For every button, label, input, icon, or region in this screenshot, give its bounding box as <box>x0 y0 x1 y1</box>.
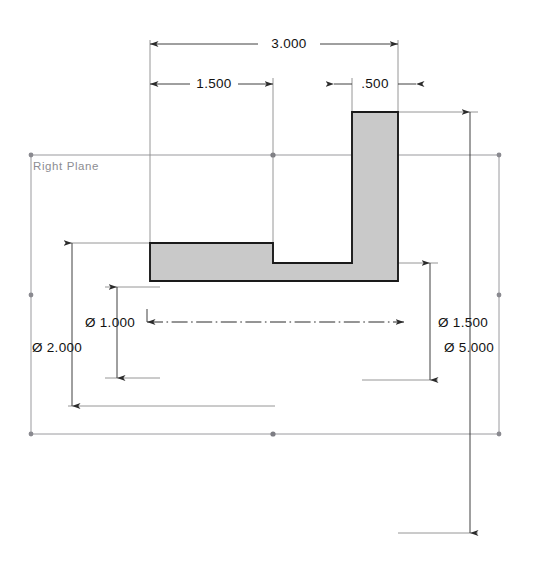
plane-corner-point-br[interactable] <box>497 432 502 437</box>
extension-lines <box>68 40 478 533</box>
dim-dia-1000-group[interactable]: Ø 1.000 <box>85 287 135 378</box>
plane-corner-point-bl[interactable] <box>29 432 34 437</box>
profile-outline[interactable] <box>150 112 398 281</box>
dim-1500-top-group[interactable]: 1.500 <box>150 76 273 91</box>
plane-midpoint-left[interactable] <box>29 293 34 298</box>
dim-1500-top-label[interactable]: 1.500 <box>196 76 231 91</box>
dim-dia-1000-label[interactable]: Ø 1.000 <box>85 315 135 330</box>
sketch-svg: Right Plane 3. <box>0 0 533 563</box>
dim-3000-group[interactable]: 3.000 <box>150 36 398 51</box>
dim-3000-label[interactable]: 3.000 <box>271 36 306 51</box>
right-plane-boundary[interactable] <box>29 152 502 436</box>
dim-dia-1500-group[interactable]: Ø 1.500 <box>430 263 488 380</box>
right-plane-label: Right Plane <box>33 160 99 172</box>
dim-0500-label[interactable]: .500 <box>361 76 388 91</box>
dim-dia-2000-group[interactable]: Ø 2.000 <box>32 243 82 406</box>
revolve-profile-shape[interactable] <box>150 112 398 281</box>
revolve-axis-centerline[interactable] <box>147 309 404 322</box>
dim-dia-2000-label[interactable]: Ø 2.000 <box>32 340 82 355</box>
plane-corner-point-tr[interactable] <box>497 153 502 158</box>
dim-0500-group[interactable]: .500 <box>334 76 416 91</box>
plane-midpoint-right[interactable] <box>497 293 502 298</box>
plane-corner-point-tl[interactable] <box>29 153 34 158</box>
dim-dia-1500-label[interactable]: Ø 1.500 <box>438 315 488 330</box>
plane-midpoint-bottom[interactable] <box>270 431 275 436</box>
plane-rectangle[interactable] <box>31 155 499 434</box>
dim-dia-5000-label[interactable]: Ø 5.000 <box>444 340 494 355</box>
engineering-drawing-canvas: Right Plane 3. <box>0 0 533 563</box>
